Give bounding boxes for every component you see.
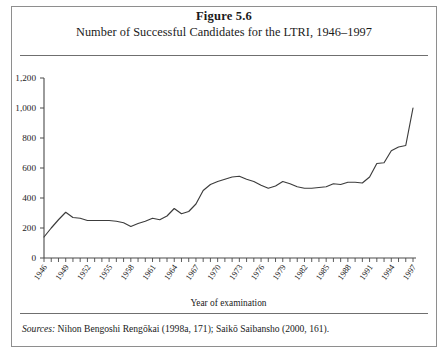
y-tick-label: 0 <box>31 253 36 263</box>
y-axis: 02004006008001,0001,200 <box>15 73 44 263</box>
x-tick-label: 1997 <box>401 263 418 282</box>
x-tick-label: 1979 <box>271 263 288 282</box>
x-tick-label: 1976 <box>249 263 266 282</box>
sources-text: Nihon Bengoshi Rengōkai (1998a, 171); Sa… <box>55 323 329 334</box>
data-series-line <box>44 108 413 237</box>
x-tick-label: 1988 <box>336 263 353 282</box>
figure-title: Number of Successful Candidates for the … <box>12 24 436 40</box>
x-tick-label: 1994 <box>379 262 396 282</box>
sources-label: Sources: <box>22 323 55 334</box>
x-tick-label: 1949 <box>54 263 71 282</box>
x-tick-label: 1985 <box>314 263 331 282</box>
y-tick-label: 1,200 <box>15 73 36 83</box>
x-tick-label: 1982 <box>293 263 310 282</box>
line-chart: 02004006008001,0001,200 1946194919521955… <box>0 60 448 310</box>
sources-note: Sources: Nihon Bengoshi Rengōkai (1998a,… <box>22 322 426 335</box>
y-tick-label: 1,000 <box>15 103 36 113</box>
y-tick-label: 800 <box>22 133 36 143</box>
figure-number: Figure 5.6 <box>12 9 436 24</box>
x-axis: 1946194919521955195819611964196719701973… <box>32 258 418 308</box>
chart-plot-area: 02004006008001,0001,200 1946194919521955… <box>0 60 448 310</box>
x-tick-label: 1952 <box>76 263 93 282</box>
figure-card: Figure 5.6 Number of Successful Candidat… <box>0 0 448 354</box>
x-tick-label: 1970 <box>206 263 223 282</box>
x-tick-label: 1973 <box>228 263 245 282</box>
sources-divider-rule <box>20 313 428 314</box>
x-tick-label: 1955 <box>97 263 114 282</box>
x-tick-label: 1958 <box>119 263 136 282</box>
x-tick-label: 1967 <box>184 263 201 282</box>
series-polyline <box>44 108 413 237</box>
figure-title-block: Figure 5.6 Number of Successful Candidat… <box>12 9 436 40</box>
x-tick-label: 1961 <box>141 263 158 282</box>
x-tick-label: 1946 <box>32 263 49 282</box>
y-tick-label: 400 <box>22 193 36 203</box>
title-divider-rule <box>20 55 428 56</box>
x-tick-label: 1991 <box>358 263 375 282</box>
x-tick-label: 1964 <box>162 262 179 282</box>
y-tick-label: 200 <box>22 223 36 233</box>
y-tick-label: 600 <box>22 163 36 173</box>
x-axis-title: Year of examination <box>190 298 266 308</box>
